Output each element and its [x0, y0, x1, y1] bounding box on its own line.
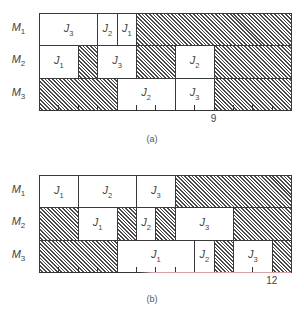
- idle-block: [233, 207, 292, 240]
- job-block: J2: [117, 78, 176, 111]
- axis-tick: [78, 267, 79, 272]
- idle-block: [155, 207, 175, 240]
- job-label: J1: [40, 184, 78, 199]
- machine-label: M3: [0, 248, 37, 263]
- axis-tick-label: 12: [266, 275, 277, 286]
- job-label: J2: [176, 54, 214, 69]
- machine-label: M1: [0, 21, 37, 36]
- axis-tick-label: 9: [211, 113, 217, 124]
- figure-caption: (a): [147, 134, 158, 144]
- idle-block: [272, 240, 292, 273]
- axis-tick: [175, 267, 176, 272]
- axis-tick: [233, 267, 234, 272]
- gantt-grid: J1J2J3J1J2J3J1J2J3: [39, 175, 291, 272]
- job-label: J2: [98, 22, 116, 37]
- idle-block: [214, 45, 293, 78]
- axis-tick: [214, 267, 215, 272]
- job-label: J2: [195, 249, 213, 264]
- machine-label: M1: [0, 183, 37, 198]
- job-block: J1: [117, 13, 137, 46]
- idle-block: [117, 207, 137, 240]
- axis-tick: [272, 267, 273, 272]
- machine-label: M3: [0, 86, 37, 101]
- axis-tick: [194, 105, 195, 110]
- job-label: J2: [79, 184, 136, 199]
- axis-tick: [214, 105, 215, 110]
- job-block: J3: [136, 175, 176, 208]
- idle-block: [136, 13, 292, 46]
- axis-tick: [252, 267, 253, 272]
- job-label: J1: [118, 22, 136, 37]
- time-axis: [39, 110, 291, 111]
- job-block: J2: [194, 240, 214, 273]
- job-block: J2: [175, 45, 215, 78]
- job-label: J3: [98, 54, 136, 69]
- axis-tick: [117, 267, 118, 272]
- axis-tick: [58, 105, 59, 110]
- axis-tick: [252, 105, 253, 110]
- idle-block: [214, 240, 234, 273]
- job-block: J1: [78, 207, 118, 240]
- job-block: J1: [39, 175, 79, 208]
- axis-tick: [272, 105, 273, 110]
- axis-tick: [97, 267, 98, 272]
- idle-block: [39, 207, 79, 240]
- axis-tick: [117, 105, 118, 110]
- idle-block: [78, 45, 98, 78]
- time-axis: [39, 272, 291, 273]
- machine-label: M2: [0, 215, 37, 230]
- job-label: J1: [118, 249, 195, 264]
- axis-tick: [97, 105, 98, 110]
- job-label: J1: [40, 54, 78, 69]
- axis-tick: [175, 105, 176, 110]
- axis-tick: [78, 105, 79, 110]
- job-block: J1: [39, 45, 79, 78]
- axis-tick: [136, 267, 137, 272]
- axis-tick: [58, 267, 59, 272]
- axis-tick: [155, 105, 156, 110]
- axis-tick: [233, 105, 234, 110]
- job-label: J3: [234, 249, 272, 264]
- job-block: J2: [136, 207, 156, 240]
- job-label: J3: [40, 22, 97, 37]
- job-block: J3: [39, 13, 98, 46]
- job-block: J2: [78, 175, 137, 208]
- job-label: J3: [176, 216, 233, 231]
- axis-tick: [155, 267, 156, 272]
- job-block: J3: [175, 207, 234, 240]
- job-label: J2: [118, 87, 175, 102]
- job-label: J1: [79, 216, 117, 231]
- axis-tick: [136, 105, 137, 110]
- job-label: J2: [137, 216, 155, 231]
- job-block: J2: [97, 13, 117, 46]
- figure-caption: (b): [147, 294, 158, 304]
- idle-block: [175, 175, 292, 208]
- machine-label: M2: [0, 53, 37, 68]
- gantt-grid: J3J2J1J1J3J2J2J3: [39, 13, 291, 110]
- job-label: J3: [137, 184, 175, 199]
- idle-block: [136, 45, 176, 78]
- axis-tick: [194, 267, 195, 272]
- job-label: J3: [176, 87, 214, 102]
- job-block: J3: [97, 45, 137, 78]
